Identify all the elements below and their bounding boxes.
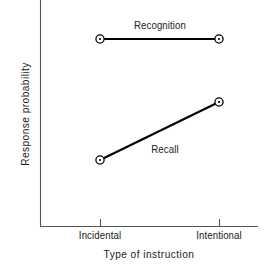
data-point-recall-incidental-center [99,159,101,161]
x-axis-title: Type of instruction [49,248,250,260]
data-point-recognition-intentional-center [218,38,220,40]
data-point-recall-intentional-center [218,101,220,103]
data-point-recognition-incidental-center [99,38,101,40]
series-label-recognition: Recognition [123,19,197,31]
series-label-recall: Recall [137,143,192,155]
y-axis-title: Response probability [19,45,31,183]
plot-area [0,0,270,266]
chart-figure: Recognition Recall Incidental Intentiona… [0,0,270,266]
x-tick-label-incidental: Incidental [63,229,137,241]
x-tick-label-intentional: Intentional [182,229,256,241]
